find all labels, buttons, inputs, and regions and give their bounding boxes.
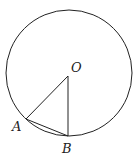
circle [6, 10, 132, 136]
label-a: A [11, 119, 21, 134]
label-b: B [61, 141, 72, 156]
label-o: O [71, 60, 82, 75]
circle-diagram: O A B [0, 0, 140, 161]
chord-ab [26, 119, 68, 136]
radius-oa [26, 76, 68, 119]
